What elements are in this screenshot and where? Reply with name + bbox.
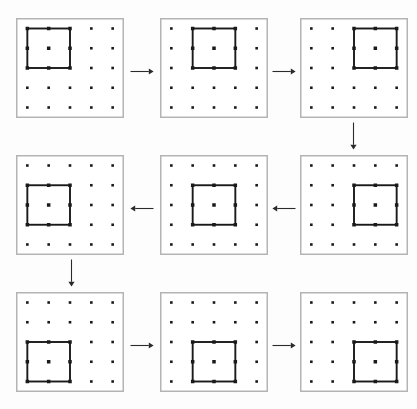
panel-canvas-bottom-center xyxy=(160,292,268,392)
arrow-canvas xyxy=(130,66,154,77)
lattice-dot xyxy=(170,67,173,70)
lattice-dot xyxy=(26,164,29,167)
lattice-dot-active xyxy=(68,184,72,188)
lattice-dot xyxy=(90,164,93,167)
lattice-dot-active xyxy=(212,223,216,227)
arrow-canvas xyxy=(272,340,296,351)
lattice-dot xyxy=(90,380,93,383)
panel-canvas-bottom-right xyxy=(300,292,408,392)
lattice-dot-active xyxy=(68,203,72,207)
lattice-dot xyxy=(191,164,194,167)
lattice-dot xyxy=(255,360,258,363)
lattice-dot-active xyxy=(47,360,51,364)
lattice-dot xyxy=(111,360,114,363)
lattice-dot xyxy=(213,106,216,109)
lattice-dot xyxy=(47,86,50,89)
lattice-dot xyxy=(90,243,93,246)
lattice-dot-active xyxy=(395,27,399,31)
lattice-dot xyxy=(395,243,398,246)
lattice-dot-active xyxy=(68,380,72,384)
lattice-dot xyxy=(234,86,237,89)
lattice-dot-active xyxy=(374,203,378,207)
lattice-dot xyxy=(213,301,216,304)
lattice-dot xyxy=(69,164,72,167)
panel-canvas-top-right xyxy=(300,18,408,118)
lattice-dot xyxy=(90,223,93,226)
flow-arrow-down xyxy=(66,259,77,287)
lattice-dot-active xyxy=(191,184,195,188)
lattice-dot xyxy=(331,341,334,344)
flow-arrow-right xyxy=(272,66,296,77)
lattice-dot xyxy=(170,164,173,167)
panel-canvas-top-left xyxy=(16,18,124,118)
lattice-dot xyxy=(310,243,313,246)
lattice-dot xyxy=(170,184,173,187)
lattice-dot xyxy=(310,360,313,363)
lattice-dot xyxy=(26,243,29,246)
lattice-dot xyxy=(255,223,258,226)
lattice-dot-active xyxy=(26,27,30,31)
lattice-dot xyxy=(255,380,258,383)
lattice-dot xyxy=(255,204,258,207)
lattice-dot xyxy=(310,204,313,207)
lattice-dot xyxy=(255,164,258,167)
lattice-dot xyxy=(69,243,72,246)
lattice-dot xyxy=(90,47,93,50)
lattice-dot xyxy=(191,321,194,324)
lattice-dot xyxy=(111,204,114,207)
lattice-dot xyxy=(47,106,50,109)
lattice-dot xyxy=(90,301,93,304)
lattice-panel xyxy=(300,292,408,392)
lattice-dot-active xyxy=(191,47,195,51)
lattice-dot-active xyxy=(26,340,30,344)
lattice-dot-active xyxy=(191,223,195,227)
lattice-dot xyxy=(353,106,356,109)
lattice-dot-active xyxy=(352,27,356,31)
lattice-dot xyxy=(234,243,237,246)
lattice-dot xyxy=(255,67,258,70)
lattice-panel xyxy=(16,18,124,118)
lattice-dot-active xyxy=(234,203,238,207)
lattice-dot xyxy=(170,360,173,363)
lattice-dot xyxy=(191,106,194,109)
lattice-dot xyxy=(310,86,313,89)
lattice-dot-active xyxy=(191,340,195,344)
lattice-dot xyxy=(331,360,334,363)
lattice-dot-active xyxy=(212,203,216,207)
lattice-dot xyxy=(331,321,334,324)
arrow-head xyxy=(291,342,296,348)
lattice-dot xyxy=(331,184,334,187)
lattice-dot xyxy=(111,47,114,50)
arrow-head xyxy=(350,145,356,150)
lattice-dot xyxy=(255,321,258,324)
lattice-dot-active xyxy=(26,360,30,364)
lattice-dot xyxy=(111,27,114,30)
lattice-dot xyxy=(374,86,377,89)
panel-canvas-top-center xyxy=(160,18,268,118)
lattice-dot xyxy=(69,301,72,304)
lattice-dot-active xyxy=(68,66,72,70)
flow-arrow-left xyxy=(130,203,154,214)
lattice-dot xyxy=(47,321,50,324)
lattice-dot xyxy=(69,321,72,324)
lattice-dot-active xyxy=(26,66,30,70)
lattice-dot xyxy=(255,301,258,304)
flow-arrow-left xyxy=(272,203,296,214)
lattice-dot-active xyxy=(234,184,238,188)
lattice-dot xyxy=(331,47,334,50)
lattice-dot-active xyxy=(47,184,51,188)
lattice-dot xyxy=(310,184,313,187)
lattice-dot xyxy=(331,86,334,89)
lattice-dot-active xyxy=(68,27,72,31)
lattice-dot-active xyxy=(352,66,356,70)
lattice-dot-active xyxy=(68,340,72,344)
lattice-dot xyxy=(310,380,313,383)
lattice-dot xyxy=(170,341,173,344)
lattice-dot xyxy=(111,341,114,344)
lattice-panel xyxy=(16,292,124,392)
lattice-dot-active xyxy=(352,203,356,207)
lattice-dot xyxy=(374,243,377,246)
lattice-dot xyxy=(90,360,93,363)
lattice-dot-active xyxy=(395,47,399,51)
lattice-dot xyxy=(395,86,398,89)
